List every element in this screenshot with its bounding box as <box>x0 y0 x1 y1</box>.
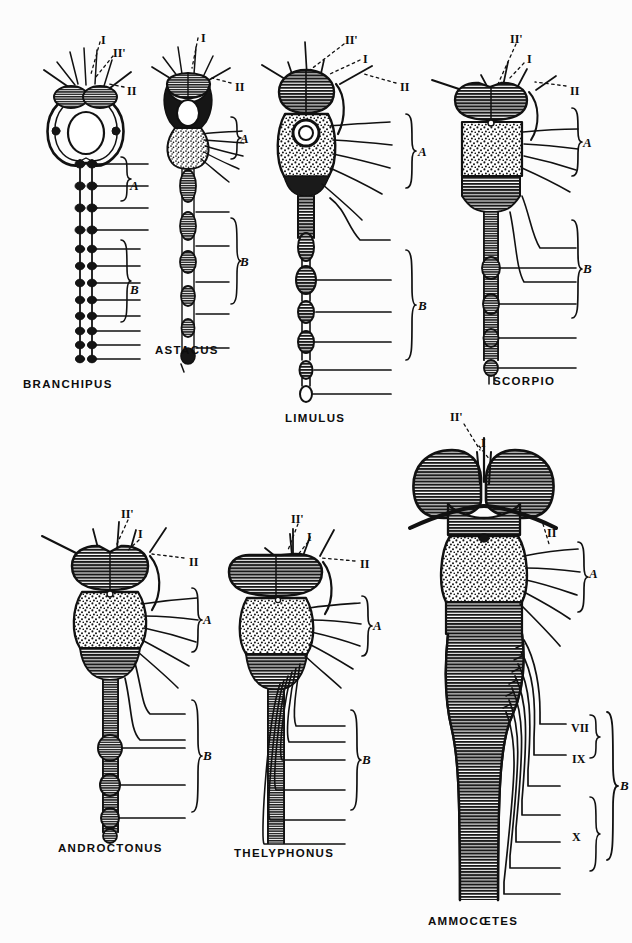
label-thelyphonus-II-prime: II' <box>291 512 304 527</box>
label-ammocoetes-X: X <box>572 830 581 845</box>
label-limulus-II: II <box>400 80 409 95</box>
label-ammocoetes-I: I <box>481 436 486 451</box>
bracket-label-ammocoetes-A: A <box>589 566 598 582</box>
figure-scorpio <box>432 44 582 384</box>
label-thelyphonus-II: II <box>360 557 369 572</box>
bracket-label-limulus-B: B <box>418 298 427 314</box>
figure-caption-ammocoetes: AMMOCŒTES <box>428 915 518 927</box>
bracket-label-androctonus-A: A <box>203 612 212 628</box>
bracket-label-thelyphonus-B: B <box>362 752 371 768</box>
label-androctonus-II: II <box>189 555 198 570</box>
plate-artwork <box>0 0 632 943</box>
label-androctonus-II-prime: II' <box>121 507 134 522</box>
label-branchipus-II: II <box>127 84 136 99</box>
label-ammocoetes-IX: IX <box>572 752 585 767</box>
label-androctonus-I: I <box>138 527 143 542</box>
label-astacus-II: II <box>235 80 244 95</box>
label-scorpio-II: II <box>570 84 579 99</box>
anatomical-plate: BRANCHIPUS I II' II A B ASTACUS I II A B… <box>0 0 632 943</box>
figure-thelyphonus <box>229 524 372 844</box>
figure-caption-astacus: ASTACUS <box>155 344 219 356</box>
bracket-label-androctonus-B: B <box>203 748 212 764</box>
label-ammocoetes-II-prime: II' <box>450 410 463 425</box>
bracket-label-branchipus-B: B <box>130 282 139 298</box>
bracket-label-ammocoetes-B: B <box>620 778 629 794</box>
figure-caption-scorpio: SCORPIO <box>493 375 555 387</box>
bracket-label-thelyphonus-A: A <box>373 618 382 634</box>
label-limulus-II-prime: II' <box>345 33 358 48</box>
label-scorpio-I: I <box>527 52 532 67</box>
label-ammocoetes-II: II <box>547 526 556 541</box>
label-astacus-I: I <box>201 31 206 46</box>
bracket-label-limulus-A: A <box>418 144 427 160</box>
figure-caption-branchipus: BRANCHIPUS <box>23 378 113 390</box>
figure-ammocoetes <box>410 424 618 900</box>
label-thelyphonus-I: I <box>307 530 312 545</box>
bracket-label-scorpio-A: A <box>583 135 592 151</box>
label-scorpio-II-prime: II' <box>510 32 523 47</box>
label-ammocoetes-VII: VII <box>571 721 589 736</box>
bracket-label-astacus-A: A <box>240 131 249 147</box>
figure-limulus <box>262 42 416 402</box>
figure-caption-limulus: LIMULUS <box>285 412 345 424</box>
label-branchipus-I: I <box>101 33 106 48</box>
bracket-label-scorpio-B: B <box>583 261 592 277</box>
bracket-label-branchipus-A: A <box>130 178 139 194</box>
bracket-label-astacus-B: B <box>240 254 249 270</box>
label-limulus-I: I <box>363 52 368 67</box>
figure-caption-androctonus: ANDROCTONUS <box>58 842 163 854</box>
label-branchipus-II-prime: II' <box>113 46 126 61</box>
figure-astacus <box>152 38 244 372</box>
figure-caption-thelyphonus: THELYPHONUS <box>234 847 334 859</box>
figure-androctonus <box>42 520 202 843</box>
